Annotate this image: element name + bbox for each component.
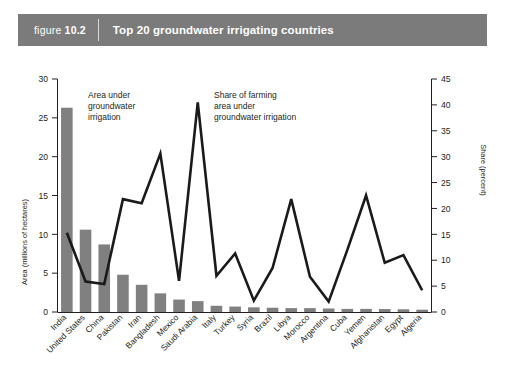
y-tick-label: 0 (43, 307, 48, 317)
bar (285, 308, 297, 312)
y-tick-label: 10 (38, 230, 48, 240)
y-axis-title: Area (millions of hectares) (20, 199, 29, 285)
y2-tick-label: 40 (441, 100, 451, 110)
bar (155, 293, 167, 312)
y2-tick-label: 25 (441, 178, 451, 188)
figure-number-label: figure 10.2 (18, 24, 86, 36)
figure-title: Top 20 groundwater irrigating countries (113, 24, 334, 36)
bar (398, 309, 410, 312)
bar (211, 306, 223, 312)
annotation-bars-line1: Area under (88, 90, 130, 100)
x-axis-label: Algeria (398, 312, 424, 338)
x-axis-label: Turkey (212, 312, 238, 338)
y2-tick-label: 35 (441, 126, 451, 136)
y-tick-label: 5 (43, 268, 48, 278)
bar (323, 309, 335, 313)
y2-tick-label: 45 (441, 74, 451, 84)
annotation-line-line3: groundwater irrigation (214, 112, 296, 122)
y-tick-label: 25 (38, 113, 48, 123)
y2-axis-title: Share (percent) (479, 144, 488, 195)
annotation-bars-line2: groundwater (88, 101, 135, 111)
y2-tick-label: 5 (441, 281, 446, 291)
annotation-line-line1: Share of farming (214, 90, 277, 100)
y2-tick-label: 10 (441, 255, 451, 265)
bar (173, 300, 185, 312)
bar (360, 309, 372, 312)
y2-tick-label: 30 (441, 152, 451, 162)
y-tick-label: 15 (38, 191, 48, 201)
y-axis-right: 051015202530354045 (432, 74, 451, 317)
y-axis-left: 051015202530 (38, 74, 57, 317)
annotation-line: Share of farming area under groundwater … (214, 90, 296, 122)
y2-tick-label: 0 (441, 307, 446, 317)
bar (267, 308, 279, 312)
bar (117, 275, 129, 312)
y2-tick-label: 20 (441, 204, 451, 214)
combo-chart: Area (millions of hectares) Share (perce… (0, 52, 505, 380)
bar (379, 309, 391, 312)
header-divider (98, 19, 99, 41)
annotation-line-line2: area under (214, 101, 255, 111)
bar (416, 310, 428, 312)
bar (136, 285, 148, 312)
x-axis-label: Brazil (252, 312, 274, 334)
bar (342, 309, 354, 312)
figure-word: figure (34, 24, 61, 36)
bar (61, 108, 73, 312)
x-axis-label: Syria (235, 312, 256, 333)
x-axis-category-labels: IndiaUnited StatesChinaPakistanIranBangl… (44, 312, 423, 355)
annotation-bars: Area under groundwater irrigation (88, 90, 135, 122)
annotation-bars-line3: irrigation (88, 112, 121, 122)
bar-series (61, 108, 428, 312)
y-tick-label: 30 (38, 74, 48, 84)
figure-header-band: figure 10.2 Top 20 groundwater irrigatin… (18, 14, 487, 46)
bar (192, 301, 204, 312)
bar (229, 307, 241, 312)
chart-canvas: Area (millions of hectares) Share (perce… (0, 52, 505, 380)
bar (304, 308, 316, 312)
bar (248, 307, 260, 312)
line-series (67, 102, 422, 301)
y-tick-label: 20 (38, 152, 48, 162)
y2-tick-label: 15 (441, 230, 451, 240)
figure-number-value: 10.2 (65, 24, 86, 36)
